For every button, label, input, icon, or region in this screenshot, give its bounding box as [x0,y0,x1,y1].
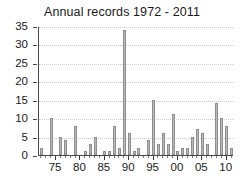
bar [147,140,150,155]
bar [84,151,87,155]
x-tick-label: 90 [122,162,135,174]
x-tick-minor [109,156,110,158]
bar [176,151,179,155]
x-tick-minor [40,156,41,158]
y-tick-label: 10 [15,113,28,125]
y-tick-mark [33,64,37,65]
x-tick-label: 10 [219,162,232,174]
x-tick-minor [167,156,168,158]
y-tick-label: 35 [15,21,28,33]
y-tick-mark [33,101,37,102]
bars-layer [39,27,233,155]
x-tick-minor [99,156,100,158]
x-tick-minor [70,156,71,158]
x-tick-minor [94,156,95,158]
x-tick-minor [196,156,197,158]
bar [215,103,218,155]
x-axis: 7580859095000510 [38,162,233,178]
y-tick-label: 30 [15,40,28,52]
y-tick-label: 25 [15,58,28,70]
x-tick-minor [143,156,144,158]
chart-title: Annual records 1972 - 2011 [0,5,244,19]
x-tick-minor [45,156,46,158]
bar [118,148,121,155]
x-tick-minor [118,156,119,158]
x-tick-minor [133,156,134,158]
y-tick-mark [33,119,37,120]
x-tick-label: 85 [97,162,110,174]
x-tick-minor [162,156,163,158]
bar [162,133,165,155]
bar [186,148,189,155]
x-tick-minor [89,156,90,158]
x-tick-minor [123,156,124,158]
bar [74,126,77,155]
x-tick-minor [206,156,207,158]
bar [123,30,126,155]
bar [225,126,228,155]
y-tick-mark [33,82,37,83]
x-tick-minor [182,156,183,158]
x-tick-label: 00 [171,162,184,174]
x-tick-major [201,156,202,160]
bar [108,151,111,155]
bar [40,148,43,155]
x-tick-minor [60,156,61,158]
bar [137,148,140,155]
y-tick-mark [33,138,37,139]
x-tick-minor [211,156,212,158]
bar [157,144,160,155]
bar [181,148,184,155]
x-tick-minor [192,156,193,158]
x-tick-major [55,156,56,160]
x-tick-label: 75 [49,162,62,174]
bar [220,118,223,155]
bar [191,137,194,155]
x-tick-minor [65,156,66,158]
bar [94,137,97,155]
x-tick-minor [84,156,85,158]
bar [196,129,199,155]
x-tick-minor [50,156,51,158]
x-tick-major [226,156,227,160]
bar [172,114,175,155]
x-tick-major [79,156,80,160]
bar [64,140,67,155]
x-tick-minor [138,156,139,158]
x-tick-label: 95 [146,162,159,174]
x-tick-minor [187,156,188,158]
x-tick-major [104,156,105,160]
y-tick-label: 0 [22,150,28,162]
x-tick-label: 05 [195,162,208,174]
x-tick-minor [216,156,217,158]
y-tick-mark [33,27,37,28]
x-tick-minor [231,156,232,158]
x-tick-major [153,156,154,160]
bar [230,148,233,155]
y-tick-label: 5 [22,132,28,144]
bar [201,133,204,155]
bar [152,100,155,155]
bar-chart-figure: Annual records 1972 - 2011 0510152025303… [0,0,244,186]
x-tick-label: 80 [73,162,86,174]
bar [59,137,62,155]
bar [50,118,53,155]
bar [103,151,106,155]
x-tick-minor [157,156,158,158]
x-tick-minor [75,156,76,158]
y-axis: 05101520253035 [0,27,33,156]
y-tick-label: 20 [15,77,28,89]
bar [133,151,136,155]
plot-area [38,27,233,156]
bar [167,144,170,155]
x-tick-major [177,156,178,160]
y-tick-label: 15 [15,95,28,107]
bar [206,144,209,155]
x-tick-minor [172,156,173,158]
x-tick-major [128,156,129,160]
x-tick-minor [221,156,222,158]
bar [113,126,116,155]
x-tick-minor [148,156,149,158]
bar [89,144,92,155]
bar [128,133,131,155]
